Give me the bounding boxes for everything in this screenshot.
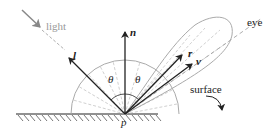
p-label: p <box>121 117 127 128</box>
r-label: r <box>188 48 192 59</box>
reflection-diagram: light l n r v θ θ p eye surface <box>0 0 274 137</box>
l-label: l <box>73 50 76 61</box>
theta-left-label: θ <box>108 74 113 85</box>
light-label: light <box>46 21 66 32</box>
theta-right-label: θ <box>135 74 140 85</box>
diagram-graphics <box>0 0 274 137</box>
v-label: v <box>196 56 201 67</box>
surface-pointer-arrow <box>206 96 222 110</box>
eye-label: eye <box>247 17 262 28</box>
surface-hatch <box>16 114 161 121</box>
n-label: n <box>130 27 136 38</box>
l-vector <box>69 58 125 114</box>
light-arrow <box>22 10 40 27</box>
surface-label: surface <box>190 84 222 95</box>
